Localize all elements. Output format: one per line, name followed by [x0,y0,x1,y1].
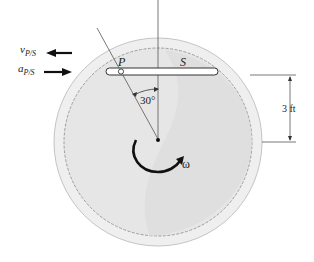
dimension-arrow-top [288,76,292,81]
dimension-arrow-bottom [288,136,292,141]
acceleration-subscript: P/S [23,68,35,77]
velocity-arrowhead-icon [46,49,56,57]
label-dimension: 3 ft [282,103,296,114]
diagram-canvas: P S 30° ω 3 ft vP/S aP/S [0,0,314,262]
label-s: S [180,55,186,69]
label-acceleration: aP/S [18,62,35,77]
center-pivot [156,138,160,142]
label-velocity: vP/S [20,43,36,58]
acceleration-arrowhead-icon [62,68,72,76]
pin-p [118,69,123,74]
velocity-subscript: P/S [24,49,36,58]
label-omega: ω [182,157,190,171]
label-angle: 30° [140,94,155,106]
label-p: P [117,55,126,69]
